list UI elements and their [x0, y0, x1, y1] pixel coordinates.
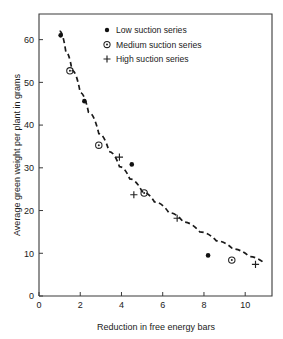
x-tick-label: 8 [201, 300, 206, 310]
y-tick-label: 20 [24, 206, 34, 216]
x-axis-title: Reduction in free energy bars [97, 322, 216, 332]
chart-figure: 0246810 0102030405060 Low suction series… [0, 0, 283, 339]
x-tick-label: 4 [119, 300, 124, 310]
data-point-low-suction [58, 33, 63, 38]
data-point-medium-suction-core [231, 259, 233, 261]
y-tick-label: 0 [29, 291, 34, 301]
data-point-medium-suction-core [69, 70, 71, 72]
data-point-medium-suction-core [98, 144, 100, 146]
legend-label: Medium suction series [116, 40, 202, 50]
legend-label: High suction series [116, 54, 189, 64]
x-tick-label: 6 [160, 300, 165, 310]
data-point-medium-suction-core [143, 192, 145, 194]
y-tick-label: 40 [24, 120, 34, 130]
y-axis-title: Average green weight per plant in grams [12, 74, 22, 236]
y-tick-label: 50 [24, 78, 34, 88]
y-tick-label: 30 [24, 163, 34, 173]
legend-marker-medium-suction-core [106, 44, 108, 46]
scatter-chart: 0246810 0102030405060 Low suction series… [0, 0, 283, 339]
chart-background [0, 0, 283, 339]
x-tick-label: 0 [36, 300, 41, 310]
legend-marker-low-suction [105, 28, 109, 32]
data-point-low-suction [129, 162, 134, 167]
x-tick-label: 10 [240, 300, 250, 310]
data-point-low-suction [82, 99, 87, 104]
y-tick-label: 10 [24, 249, 34, 259]
y-tick-label: 60 [24, 35, 34, 45]
legend-label: Low suction series [116, 25, 187, 35]
x-tick-label: 2 [78, 300, 83, 310]
data-point-low-suction [206, 253, 211, 258]
